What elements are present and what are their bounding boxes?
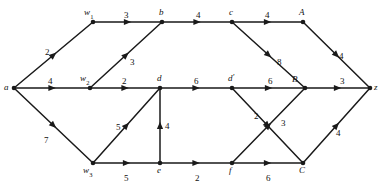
node-w3[interactable] bbox=[91, 161, 96, 166]
edge-weight-e-to-d: 4 bbox=[165, 122, 170, 131]
edge-weight-c-to-B: 8 bbox=[277, 58, 282, 67]
edge-weight-dp-to-B: 6 bbox=[268, 77, 273, 86]
network-flow-diagram: 247332554642482636434aw1w2w3bdecd′fABCz bbox=[0, 0, 388, 187]
edge-weight-A-to-z: 4 bbox=[339, 52, 344, 61]
node-label-d: d bbox=[157, 74, 162, 83]
node-w2[interactable] bbox=[88, 86, 93, 91]
node-label-w3: w3 bbox=[83, 166, 92, 177]
arrowhead-e-to-f bbox=[192, 160, 199, 166]
edge-weight-w3-to-e: 5 bbox=[124, 174, 129, 183]
edge-weight-w2-to-d: 2 bbox=[122, 77, 127, 86]
node-label-subscript-w3: 3 bbox=[89, 171, 92, 178]
node-label-C: C bbox=[299, 166, 305, 175]
edge-weight-c-to-A: 4 bbox=[265, 11, 270, 20]
node-label-A: A bbox=[299, 8, 305, 17]
edge-weight-a-to-w3: 7 bbox=[44, 136, 49, 145]
edge-weight-b-to-c: 4 bbox=[196, 11, 201, 20]
node-label-c: c bbox=[229, 8, 233, 17]
node-label-dp: d′ bbox=[228, 74, 234, 83]
nodes-layer bbox=[12, 20, 373, 166]
node-label-subscript-w1: 1 bbox=[90, 13, 93, 20]
edge-weight-C-to-z: 4 bbox=[336, 129, 341, 138]
edge-weight-dp-to-C: 2 bbox=[254, 112, 259, 121]
edge-weight-d-to-dp: 6 bbox=[194, 77, 199, 86]
arrowhead-w3-to-e bbox=[123, 160, 130, 166]
node-label-w2: w2 bbox=[80, 74, 89, 85]
node-c[interactable] bbox=[230, 20, 235, 25]
node-label-b: b bbox=[159, 8, 164, 17]
node-label-a: a bbox=[4, 83, 9, 92]
node-label-w1: w1 bbox=[84, 8, 93, 19]
node-w1[interactable] bbox=[91, 20, 96, 25]
node-B[interactable] bbox=[303, 86, 308, 91]
node-label-f: f bbox=[229, 166, 232, 175]
node-b[interactable] bbox=[160, 20, 165, 25]
node-a[interactable] bbox=[12, 86, 17, 91]
edge-weight-f-to-B: 3 bbox=[281, 119, 286, 128]
node-label-subscript-w2: 2 bbox=[86, 79, 89, 86]
node-d[interactable] bbox=[158, 86, 163, 91]
node-A[interactable] bbox=[301, 20, 306, 25]
node-label-B: B bbox=[292, 75, 298, 84]
edge-weight-w3-to-d: 5 bbox=[116, 123, 121, 132]
edge-weight-a-to-w1: 2 bbox=[45, 48, 50, 57]
node-label-e: e bbox=[157, 166, 161, 175]
node-label-prime-dp: ′ bbox=[233, 73, 235, 82]
edge-weight-w2-to-b: 3 bbox=[130, 58, 135, 67]
edge-weight-a-to-w2: 4 bbox=[48, 77, 53, 86]
edge-weight-w1-to-b: 3 bbox=[124, 11, 129, 20]
node-z[interactable] bbox=[368, 86, 373, 91]
edges-layer bbox=[14, 19, 370, 166]
edge-weight-e-to-f: 2 bbox=[195, 174, 200, 183]
arrowhead-f-to-C bbox=[264, 160, 271, 166]
arrowhead-e-to-d bbox=[157, 122, 163, 129]
node-label-z: z bbox=[374, 83, 378, 92]
node-dp[interactable] bbox=[230, 86, 235, 91]
edge-weight-B-to-z: 3 bbox=[340, 77, 345, 86]
edge-weight-f-to-C: 6 bbox=[266, 174, 271, 183]
graph-canvas bbox=[0, 0, 388, 187]
